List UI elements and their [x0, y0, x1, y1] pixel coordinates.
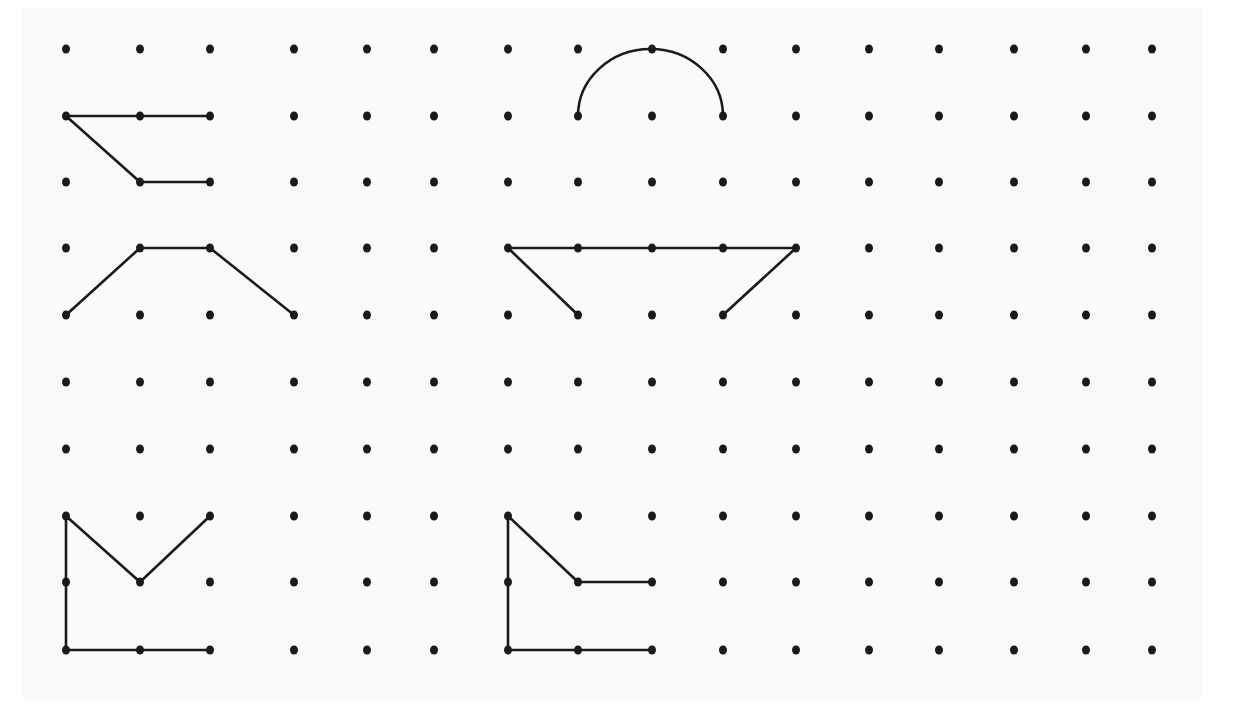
grid-dot	[1148, 44, 1156, 53]
grid-dot	[363, 44, 371, 53]
grid-dot	[865, 177, 873, 186]
grid-dot	[1010, 645, 1018, 654]
grid-dot	[1010, 177, 1018, 186]
grid-dot	[1148, 444, 1156, 453]
grid-dot	[1010, 511, 1018, 520]
grid-dot	[1148, 577, 1156, 586]
grid-dot	[504, 377, 512, 386]
grid-dot	[290, 44, 298, 53]
grid-dot	[504, 645, 512, 654]
grid-dot	[792, 377, 800, 386]
grid-dot	[206, 111, 214, 120]
grid-dot	[574, 377, 582, 386]
grid-dot	[792, 177, 800, 186]
grid-dot	[1010, 444, 1018, 453]
semicircle-arc	[578, 49, 723, 116]
grid-dot	[290, 377, 298, 386]
grid-dot	[504, 177, 512, 186]
grid-dot	[865, 444, 873, 453]
grid-dot	[1082, 44, 1090, 53]
grid-dots	[62, 44, 1156, 654]
grid-dot	[792, 44, 800, 53]
line-segment	[140, 516, 210, 582]
grid-dot	[504, 310, 512, 319]
grid-dot	[648, 177, 656, 186]
grid-dot	[648, 243, 656, 252]
grid-dot	[865, 377, 873, 386]
grid-dot	[574, 645, 582, 654]
grid-dot	[62, 444, 70, 453]
grid-dot	[206, 310, 214, 319]
grid-dot	[290, 577, 298, 586]
figure-semicircle	[578, 49, 723, 116]
grid-dot	[1148, 177, 1156, 186]
grid-dot	[1010, 44, 1018, 53]
grid-dot	[792, 310, 800, 319]
figure-z-shape	[66, 116, 210, 182]
grid-dot	[136, 377, 144, 386]
grid-dot	[1010, 243, 1018, 252]
grid-dot	[648, 44, 656, 53]
grid-dot	[792, 444, 800, 453]
grid-dot	[719, 44, 727, 53]
grid-dot	[865, 243, 873, 252]
figure-trapezoid-open	[66, 248, 294, 315]
grid-dot	[62, 645, 70, 654]
grid-dot	[62, 310, 70, 319]
grid-dot	[62, 243, 70, 252]
grid-dot	[430, 511, 438, 520]
grid-dot	[290, 511, 298, 520]
grid-dot	[719, 377, 727, 386]
grid-dot	[363, 377, 371, 386]
grid-dot	[363, 243, 371, 252]
grid-dot	[62, 177, 70, 186]
grid-dot	[290, 243, 298, 252]
line-segment	[66, 248, 140, 315]
grid-dot	[719, 645, 727, 654]
diagram-canvas	[0, 0, 1237, 708]
grid-dot	[574, 444, 582, 453]
grid-dot	[574, 243, 582, 252]
grid-dot	[206, 243, 214, 252]
grid-dot	[504, 44, 512, 53]
grid-dot	[574, 44, 582, 53]
grid-dot	[792, 243, 800, 252]
grid-dot	[1082, 511, 1090, 520]
grid-dot	[935, 111, 943, 120]
grid-dot	[1148, 511, 1156, 520]
grid-dot	[136, 577, 144, 586]
grid-dot	[1082, 444, 1090, 453]
grid-dot	[719, 310, 727, 319]
grid-dot	[1082, 310, 1090, 319]
grid-dot	[430, 377, 438, 386]
grid-dot	[504, 243, 512, 252]
grid-dot	[1082, 111, 1090, 120]
grid-dot	[648, 377, 656, 386]
grid-dot	[290, 310, 298, 319]
figure-bowl	[508, 248, 796, 315]
grid-dot	[935, 310, 943, 319]
grid-dot	[136, 111, 144, 120]
grid-dot	[136, 511, 144, 520]
grid-dot	[1010, 377, 1018, 386]
grid-dot	[865, 44, 873, 53]
grid-dot	[430, 44, 438, 53]
grid-dot	[935, 645, 943, 654]
grid-dot	[792, 511, 800, 520]
line-segment	[210, 248, 294, 315]
grid-dot	[363, 111, 371, 120]
grid-dot	[136, 645, 144, 654]
grid-dot	[935, 177, 943, 186]
grid-dot	[648, 111, 656, 120]
grid-dot	[648, 645, 656, 654]
grid-dot	[1148, 243, 1156, 252]
grid-dot	[206, 444, 214, 453]
grid-dot	[62, 44, 70, 53]
grid-dot	[935, 577, 943, 586]
grid-dot	[719, 577, 727, 586]
grid-dot	[1148, 645, 1156, 654]
grid-dot	[865, 111, 873, 120]
grid-dot	[1148, 111, 1156, 120]
grid-dot	[136, 243, 144, 252]
grid-dot	[62, 511, 70, 520]
